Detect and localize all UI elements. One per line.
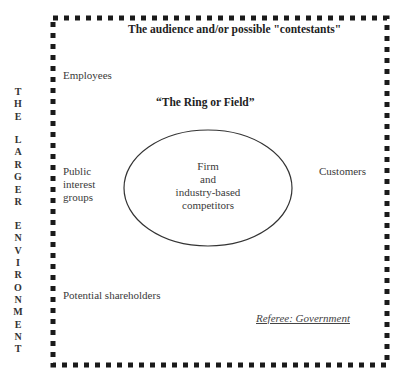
vertical-letter: R — [10, 159, 26, 170]
employees-label: Employees — [63, 69, 112, 82]
vertical-letter: N — [10, 331, 26, 342]
vertical-letter: H — [10, 98, 26, 109]
firm-line: Firm — [168, 160, 248, 173]
groups-line: groups — [63, 191, 95, 204]
and-line: and — [168, 173, 248, 186]
vertical-letter: N — [10, 294, 26, 305]
vertical-letter: R — [10, 269, 26, 280]
vertical-letter: I — [10, 257, 26, 268]
vertical-letter: L — [10, 134, 26, 145]
interest-line: interest — [63, 178, 95, 191]
public-interest-groups-label: Public interest groups — [63, 165, 95, 204]
firm-competitors-label: Firm and industry-based competitors — [168, 160, 248, 212]
vertical-letter: E — [10, 184, 26, 195]
audience-title: The audience and/or possible "contestant… — [128, 23, 341, 35]
vertical-letter: A — [10, 146, 26, 157]
customers-label: Customers — [319, 165, 366, 178]
vertical-letter: N — [10, 232, 26, 243]
vertical-letter: E — [10, 111, 26, 122]
potential-shareholders-label: Potential shareholders — [63, 289, 160, 302]
vertical-letter: M — [10, 306, 26, 317]
larger-environment-vertical-label: T H E L A R G E R E N V I R O N M E N T — [10, 86, 26, 366]
ring-title: “The Ring or Field” — [156, 96, 255, 108]
public-line: Public — [63, 165, 95, 178]
vertical-letter: E — [10, 319, 26, 330]
vertical-letter: E — [10, 220, 26, 231]
vertical-letter: G — [10, 171, 26, 182]
vertical-letter: V — [10, 245, 26, 256]
competitors-line: competitors — [168, 199, 248, 212]
vertical-letter: R — [10, 196, 26, 207]
referee-label: Referee: Government — [256, 312, 350, 324]
vertical-letter: O — [10, 282, 26, 293]
vertical-letter: T — [10, 86, 26, 97]
vertical-letter: T — [10, 343, 26, 354]
industry-based-line: industry-based — [168, 186, 248, 199]
